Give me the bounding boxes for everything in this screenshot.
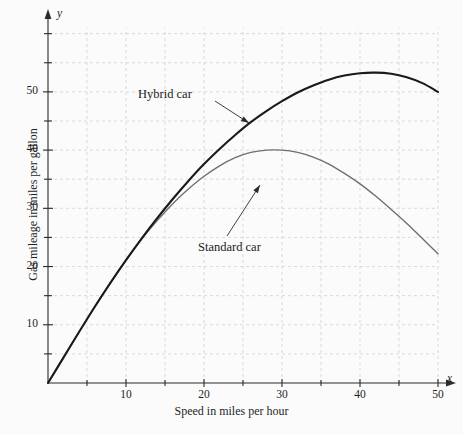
- x-tick-label: 40: [340, 388, 380, 400]
- y-axis-arrowhead-icon: [45, 9, 52, 19]
- y-axis-title: Gas mileage in miles per gallon: [26, 85, 41, 325]
- x-tick-label: 20: [184, 388, 224, 400]
- leader-arrowhead-icon: [253, 185, 260, 193]
- gas-mileage-chart-figure: 10203040501020304050 x y Speed in miles …: [0, 0, 463, 435]
- x-tick-label: 10: [106, 388, 146, 400]
- gridlines: [48, 28, 438, 383]
- series-label-standard-car: Standard car: [198, 240, 261, 255]
- x-tick-label: 30: [262, 388, 302, 400]
- y-axis-variable-label: y: [57, 7, 62, 19]
- series-label-hybrid-car: Hybrid car: [138, 87, 192, 102]
- tick-marks: [43, 34, 438, 387]
- x-axis-variable-label: x: [447, 372, 452, 384]
- x-tick-label: 50: [418, 388, 458, 400]
- axes: [45, 9, 456, 386]
- leader-arrowhead-icon: [241, 116, 249, 123]
- leader-line: [227, 185, 260, 236]
- chart-plot-area: [0, 0, 463, 435]
- x-axis-title: Speed in miles per hour: [0, 404, 463, 419]
